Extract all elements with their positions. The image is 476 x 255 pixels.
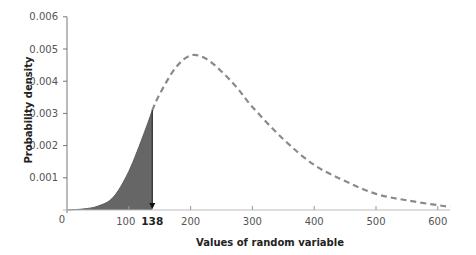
y-tick-label: 0.006 <box>29 11 58 22</box>
curve-dashed <box>152 55 450 207</box>
y-tick-label: 0.001 <box>29 172 58 183</box>
x-tick-label: 100 <box>116 216 135 227</box>
y-axis-title: Probability density <box>23 56 34 163</box>
shaded-area <box>67 110 152 210</box>
probability-density-chart: 0.0010.0020.0030.0040.0050.0060100200300… <box>0 0 476 255</box>
x-tick-label: 400 <box>305 216 324 227</box>
x-tick-label: 200 <box>181 216 200 227</box>
axes <box>63 17 450 213</box>
x-axis-title: Values of random variable <box>196 237 344 248</box>
tick-labels: 0.0010.0020.0030.0040.0050.0060100200300… <box>29 11 447 227</box>
x-tick-label: 500 <box>366 216 385 227</box>
origin-label: 0 <box>59 214 65 225</box>
x-tick-label: 600 <box>428 216 447 227</box>
shaded-region <box>67 110 152 210</box>
y-tick-label: 0.005 <box>29 44 58 55</box>
marker-value-label: 138 <box>141 215 163 227</box>
x-tick-label: 300 <box>243 216 262 227</box>
